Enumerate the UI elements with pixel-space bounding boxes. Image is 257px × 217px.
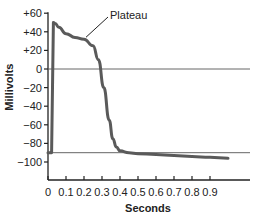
y-tick-label: −40 — [23, 100, 42, 112]
y-tick-label: +20 — [23, 44, 42, 56]
x-axis-title: Seconds — [125, 202, 171, 214]
action-potential-chart: +60+40+200−20−40−60−80−10000.10.20.30.40… — [0, 0, 257, 217]
y-tick-label: −80 — [23, 137, 42, 149]
annotation-plateau: Plateau — [110, 9, 147, 21]
x-tick-label: 0.2 — [76, 186, 91, 198]
y-tick-label: 0 — [36, 63, 42, 75]
x-tick-label: 0 — [45, 186, 51, 198]
x-tick-label: 0.6 — [148, 186, 163, 198]
annotation-leader — [86, 17, 108, 37]
y-tick-label: +60 — [23, 7, 42, 19]
y-tick-label: −60 — [23, 119, 42, 131]
x-tick-label: 0.5 — [130, 186, 145, 198]
y-tick-label: +40 — [23, 26, 42, 38]
chart-canvas: +60+40+200−20−40−60−80−10000.10.20.30.40… — [0, 0, 257, 217]
x-tick-label: 0.9 — [202, 186, 217, 198]
y-tick-label: −20 — [23, 82, 42, 94]
x-tick-label: 0.4 — [112, 186, 127, 198]
action-potential-curve — [48, 23, 228, 159]
y-axis-title: Millivolts — [3, 64, 15, 111]
x-tick-label: 0.3 — [94, 186, 109, 198]
x-tick-label: 0.7 — [166, 186, 181, 198]
x-tick-label: 0.1 — [58, 186, 73, 198]
x-tick-label: 0.8 — [184, 186, 199, 198]
y-tick-label: −100 — [17, 156, 42, 168]
